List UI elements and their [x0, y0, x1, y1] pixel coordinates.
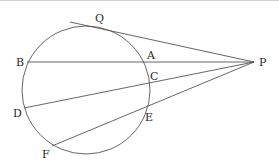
label-A: A: [146, 49, 156, 62]
label-E: E: [145, 111, 153, 124]
circle-secant-tangent-diagram: Q B A C D E F P: [0, 0, 279, 166]
label-D: D: [13, 107, 22, 120]
label-B: B: [16, 56, 24, 69]
secant-line-PCD: [24, 62, 254, 108]
label-C: C: [150, 70, 158, 83]
tangent-line-PQ: [70, 22, 254, 62]
label-F: F: [42, 148, 50, 161]
circle: [22, 26, 150, 154]
label-Q: Q: [95, 12, 104, 25]
label-P: P: [259, 56, 267, 69]
